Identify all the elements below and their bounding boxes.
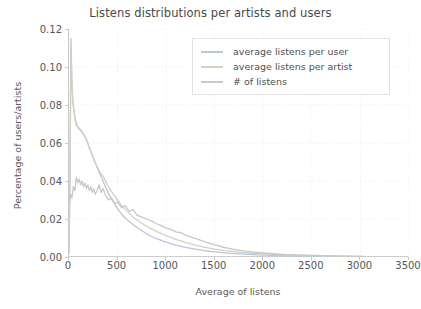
x-tick-mark: [359, 257, 360, 260]
x-tick-mark: [408, 257, 409, 260]
legend-item[interactable]: # of listens: [199, 74, 383, 89]
legend-item[interactable]: average listens per artist: [199, 59, 383, 74]
chart-title: Listens distributions per artists and us…: [0, 6, 421, 20]
x-tick-label: 3500: [378, 260, 421, 271]
y-tick-label: 0.08: [0, 100, 62, 111]
series-line-3: [69, 177, 365, 256]
legend-item-label: average listens per artist: [233, 61, 352, 72]
legend-item[interactable]: average listens per user: [199, 44, 383, 59]
x-tick-mark: [117, 257, 118, 260]
legend-item-label: # of listens: [233, 76, 287, 87]
x-tick-mark: [214, 257, 215, 260]
y-tick-label: 0.02: [0, 214, 62, 225]
chart-legend[interactable]: average listens per useraverage listens …: [192, 38, 390, 95]
x-axis-label: Average of listens: [68, 286, 408, 297]
legend-swatch-line-icon: [201, 51, 223, 53]
x-tick-mark: [165, 257, 166, 260]
legend-swatch-line-icon: [201, 66, 223, 68]
legend-swatch-line-icon: [201, 81, 223, 83]
x-tick-mark: [311, 257, 312, 260]
y-tick-label: 0.12: [0, 24, 62, 35]
legend-item-label: average listens per user: [233, 46, 348, 57]
x-tick-mark: [262, 257, 263, 260]
y-tick-label: 0.10: [0, 62, 62, 73]
chart-figure: Listens distributions per artists and us…: [0, 0, 421, 309]
y-tick-label: 0.06: [0, 138, 62, 149]
x-tick-mark: [68, 257, 69, 260]
y-tick-label: 0.04: [0, 176, 62, 187]
